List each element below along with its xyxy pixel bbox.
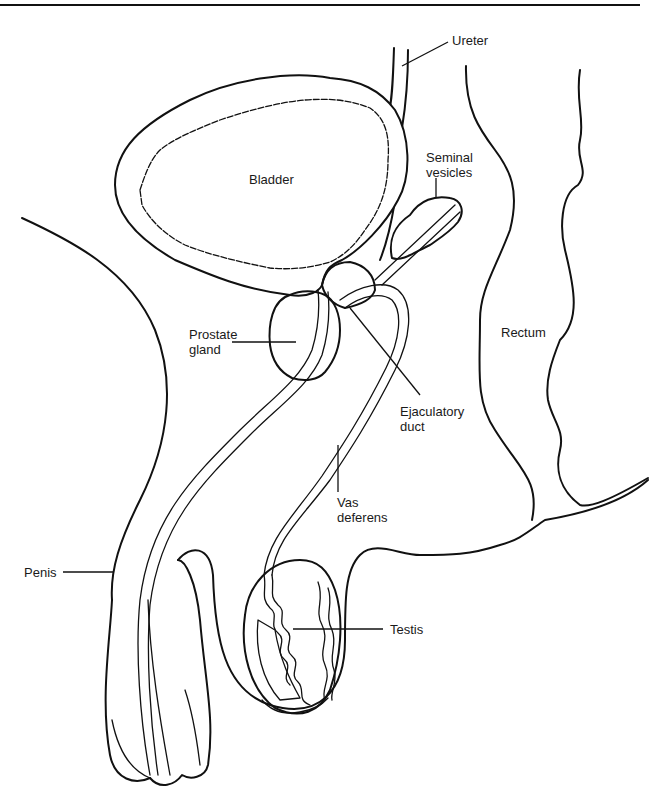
label-penis: Penis <box>24 565 57 580</box>
label-prostate-gland: Prostate gland <box>189 327 237 357</box>
label-testis: Testis <box>390 622 423 637</box>
label-seminal-line2: vesicles <box>426 165 473 180</box>
label-ureter: Ureter <box>452 33 488 48</box>
prostate-shape <box>270 291 340 380</box>
diagram-drawing <box>0 0 668 798</box>
urethra <box>138 290 329 775</box>
label-prostate-line2: gland <box>189 342 237 357</box>
label-ejaculatory-duct: Ejaculatory duct <box>400 404 464 434</box>
penis-shape <box>106 560 211 785</box>
label-seminal-line1: Seminal <box>426 150 473 165</box>
label-rectum: Rectum <box>501 325 546 340</box>
prostate-upper <box>322 262 375 308</box>
abdomen-outline <box>22 218 167 600</box>
scrotum-outline <box>178 480 648 709</box>
label-vas-deferens: Vas deferens <box>337 495 388 525</box>
label-seminal-vesicles: Seminal vesicles <box>426 150 473 180</box>
rectum-outline <box>466 66 534 520</box>
label-bladder: Bladder <box>249 172 294 187</box>
anatomy-diagram: Ureter Seminal vesicles Bladder Prostate… <box>0 0 668 798</box>
vas-deferens-tube <box>264 285 409 575</box>
leader-ejaculatory <box>350 308 420 395</box>
rectum-inner-wall <box>547 70 648 506</box>
label-ejaculatory-line2: duct <box>400 419 464 434</box>
label-prostate-line1: Prostate <box>189 327 237 342</box>
testis-shape <box>244 560 341 714</box>
label-vas-line1: Vas <box>337 495 388 510</box>
label-vas-line2: deferens <box>337 510 388 525</box>
label-ejaculatory-line1: Ejaculatory <box>400 404 464 419</box>
